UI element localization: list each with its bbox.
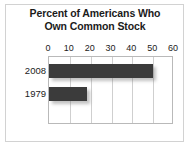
x-tick-label: 20	[85, 43, 95, 53]
x-tick-label: 0	[45, 43, 50, 53]
category-label: 1979	[25, 87, 46, 98]
chart-title-line-1: Percent of Americans Who	[30, 7, 161, 19]
x-tick-label: 30	[105, 43, 115, 53]
chart-title: Percent of Americans Who Own Common Stoc…	[10, 7, 180, 32]
chart-screenshot: Percent of Americans Who Own Common Stoc…	[0, 0, 191, 148]
category-axis-labels: 20081979	[10, 56, 46, 124]
bar	[49, 64, 153, 78]
x-tick-label: 60	[168, 43, 178, 53]
bars	[49, 57, 172, 123]
x-axis-tick-labels: 0102030405060	[48, 43, 173, 55]
plot-area	[48, 56, 173, 124]
x-tick-label: 40	[126, 43, 136, 53]
chart-title-line-2: Own Common Stock	[10, 20, 180, 33]
x-tick-label: 50	[147, 43, 157, 53]
bar	[49, 87, 87, 101]
x-tick-label: 10	[64, 43, 74, 53]
category-label: 2008	[25, 65, 46, 76]
